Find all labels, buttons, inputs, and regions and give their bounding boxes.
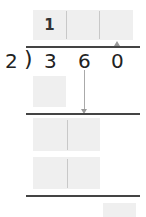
work-row3-divider [67,159,68,188]
work-box-row1[interactable] [33,76,66,107]
dividend-digit-hundreds: 3 [44,51,57,71]
bring-down-line [84,70,85,110]
subtraction-line-1 [26,113,140,115]
arrow-up-icon [114,41,120,46]
quotient-digit-hundreds: 1 [33,18,66,33]
dividend-digit-tens: 6 [78,51,91,71]
division-bar [26,46,140,48]
quotient-divider-2 [99,11,100,39]
subtraction-line-2 [26,195,140,197]
dividend-digit-ones: 0 [111,51,124,71]
division-bracket: ) [24,49,33,69]
remainder-box[interactable] [103,203,136,217]
quotient-divider-1 [66,11,67,39]
divisor: 2 [5,51,18,71]
work-row2-divider [67,120,68,150]
